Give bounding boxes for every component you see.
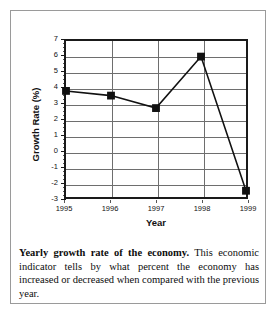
y-tick-label-6: 6 <box>54 51 58 59</box>
x-tick-label-1999: 1999 <box>240 204 257 213</box>
line-chart: Growth Rate (%) 76543210-1-2-3 199519961… <box>11 11 267 236</box>
x-tick-label-1997: 1997 <box>148 204 165 213</box>
x-tick-label-1995: 1995 <box>56 204 73 213</box>
y-tick-label-4: 4 <box>54 83 58 91</box>
plot-area <box>64 39 248 199</box>
y-tick-label-5: 5 <box>54 67 58 75</box>
y-tick-label--2: -2 <box>51 179 58 187</box>
figure-caption: Yearly growth rate of the economy. This … <box>19 246 259 300</box>
y-tick-label-2: 2 <box>54 115 58 123</box>
y-tick-label--3: -3 <box>51 195 58 203</box>
x-tick-label-1998: 1998 <box>194 204 211 213</box>
y-tick-label-1: 1 <box>54 131 58 139</box>
series-markers <box>62 53 250 195</box>
y-axis-tick-labels: 76543210-1-2-3 <box>42 39 58 199</box>
caption-lead: Yearly growth rate of the economy. <box>19 247 189 258</box>
figure-card: Growth Rate (%) 76543210-1-2-3 199519961… <box>10 10 266 304</box>
x-axis-label: Year <box>64 217 248 228</box>
data-series-growth-rate <box>66 41 246 197</box>
y-tick-label--1: -1 <box>51 163 58 171</box>
data-point-1998 <box>197 53 205 61</box>
x-tick-1996 <box>110 200 111 203</box>
data-point-1997 <box>152 104 160 112</box>
x-tick-1995 <box>64 200 65 203</box>
series-line <box>66 57 246 191</box>
data-point-1995 <box>62 87 70 95</box>
y-tick-label-3: 3 <box>54 99 58 107</box>
y-axis-label: Growth Rate (%) <box>30 65 41 185</box>
x-tick-1998 <box>202 200 203 203</box>
x-tick-1997 <box>156 200 157 203</box>
y-tick-label-7: 7 <box>54 35 58 43</box>
data-point-1999 <box>242 187 250 195</box>
x-tick-label-1996: 1996 <box>102 204 119 213</box>
data-point-1996 <box>107 92 115 100</box>
y-tick-label-0: 0 <box>54 147 58 155</box>
x-tick-1999 <box>248 200 249 203</box>
